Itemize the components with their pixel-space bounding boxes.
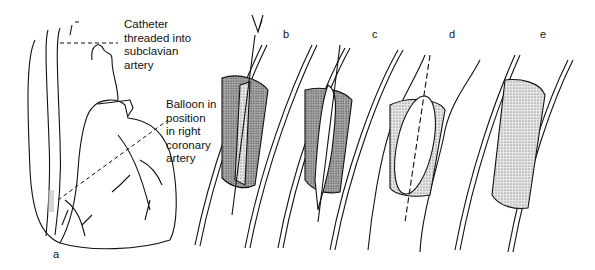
panel-label-e: e	[540, 28, 546, 40]
panel-label-a: a	[53, 248, 59, 260]
balloon-leader-line	[58, 120, 168, 200]
balloon-annotation: Balloon in position in right coronary ar…	[166, 98, 217, 166]
panel-c-artery	[278, 45, 403, 250]
panel-d-artery	[368, 55, 480, 252]
panel-label-d: d	[449, 28, 455, 40]
panel-label-b: b	[283, 28, 289, 40]
catheter-annotation: Catheter threaded into subclavian artery	[124, 18, 191, 72]
panel-e-artery	[455, 55, 573, 252]
balloon-position-marker	[48, 190, 54, 212]
panel-label-c: c	[372, 28, 378, 40]
angioplasty-diagram	[0, 0, 595, 270]
